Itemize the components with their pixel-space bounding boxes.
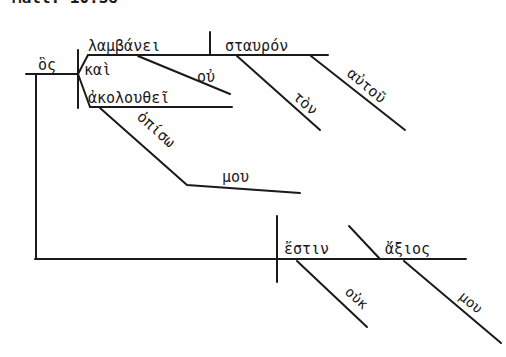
word-kai: καὶ <box>84 61 111 79</box>
modifier-line-mou-2 <box>404 261 501 343</box>
word-mou-2: μου <box>456 288 486 317</box>
sentence-diagram: Matt. 10:38 <box>0 0 506 357</box>
word-ton: τὸν <box>289 88 321 120</box>
word-mou-1: μου <box>222 168 249 186</box>
word-ou: οὐ <box>197 68 215 86</box>
word-lambanei: λαμβάνει <box>88 37 160 55</box>
word-axios: ἄξιος <box>385 240 430 258</box>
word-stauron: σταυρόν <box>225 37 288 55</box>
word-estin: ἔστιν <box>284 240 329 258</box>
predicate-adjective-divider <box>349 226 380 259</box>
word-hos: ὃς <box>38 56 56 74</box>
modifier-line-opiso-mou <box>100 108 300 193</box>
word-akolouthei: ἀκολουθεῖ <box>88 89 169 107</box>
verse-reference: Matt. 10:38 <box>12 0 118 7</box>
